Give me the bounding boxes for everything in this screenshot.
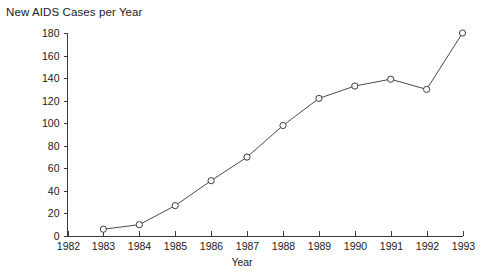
x-tick-label: 1993 <box>452 240 476 252</box>
y-tick-label: 180 <box>42 27 60 39</box>
x-axis: 1982198319841985198619871988198919901991… <box>57 231 476 252</box>
data-point-marker <box>244 154 250 160</box>
y-tick-label: 120 <box>42 95 60 107</box>
x-tick-label: 1989 <box>308 240 332 252</box>
data-point-marker <box>100 226 106 232</box>
x-axis-tick-labels: 1982198319841985198619871988198919901991… <box>57 240 476 252</box>
y-axis: 020406080100120140160180 <box>42 27 68 242</box>
x-tick-label: 1986 <box>200 240 224 252</box>
y-axis-tick-labels: 020406080100120140160180 <box>42 27 60 242</box>
data-point-marker <box>352 83 358 89</box>
data-point-marker <box>208 178 214 184</box>
chart-plot-area: 020406080100120140160180 198219831984198… <box>0 0 484 279</box>
y-tick-label: 160 <box>42 50 60 62</box>
chart-figure: New AIDS Cases per Year 0204060801001201… <box>0 0 484 279</box>
y-tick-label: 80 <box>48 140 60 152</box>
data-point-marker <box>136 222 142 228</box>
x-tick-label: 1992 <box>416 240 440 252</box>
y-tick-label: 100 <box>42 117 60 129</box>
data-point-marker <box>316 95 322 101</box>
data-point-marker <box>280 122 286 128</box>
data-point-marker <box>424 86 430 92</box>
data-series-aids-cases <box>100 30 465 232</box>
x-tick-label: 1985 <box>164 240 188 252</box>
x-tick-label: 1987 <box>236 240 260 252</box>
series-markers <box>100 30 465 232</box>
x-tick-label: 1984 <box>128 240 152 252</box>
data-point-marker <box>459 30 465 36</box>
x-axis-title: Year <box>0 256 484 268</box>
y-tick-label: 20 <box>48 207 60 219</box>
x-tick-label: 1990 <box>344 240 368 252</box>
x-tick-label: 1982 <box>57 240 81 252</box>
y-axis-ticks <box>64 34 68 237</box>
x-tick-label: 1991 <box>380 240 404 252</box>
y-tick-label: 40 <box>48 185 60 197</box>
x-tick-label: 1988 <box>272 240 296 252</box>
series-line <box>103 33 462 229</box>
y-tick-label: 140 <box>42 72 60 84</box>
y-tick-label: 60 <box>48 162 60 174</box>
x-axis-ticks <box>69 231 464 236</box>
data-point-marker <box>172 203 178 209</box>
x-tick-label: 1983 <box>92 240 116 252</box>
data-point-marker <box>388 76 394 82</box>
